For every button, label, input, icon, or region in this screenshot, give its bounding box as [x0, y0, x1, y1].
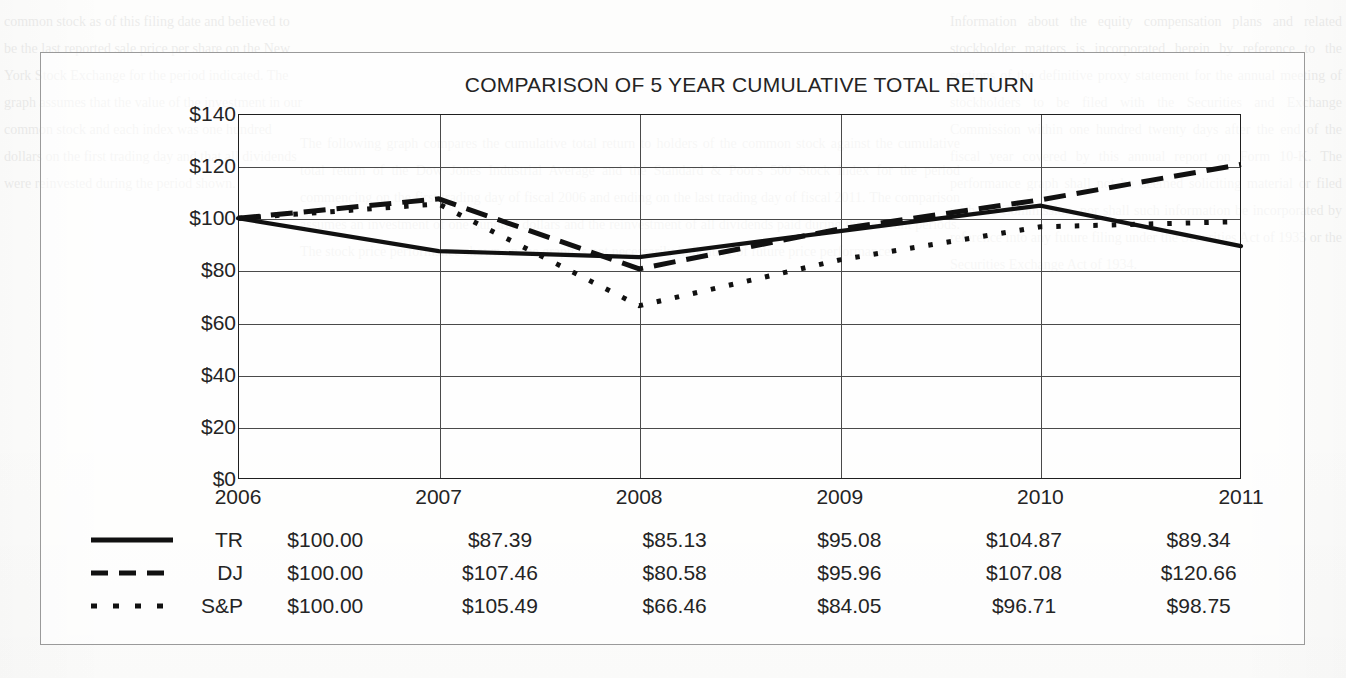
line-solid-icon [91, 537, 173, 542]
legend-value-cell: $100.00 [240, 594, 410, 618]
y-tick-label: $60 [146, 311, 236, 335]
legend-value-cell: $107.46 [415, 561, 585, 585]
y-tick-label: $140 [146, 102, 236, 126]
y-tick-label: $20 [146, 415, 236, 439]
y-tick-label: $80 [146, 258, 236, 282]
y-tick-label: $100 [146, 206, 236, 230]
legend-value-cell: $85.13 [590, 528, 760, 552]
x-tick-label: 2011 [1161, 485, 1321, 509]
y-axis-tick-labels: $0$20$40$60$80$100$120$140 [136, 114, 236, 479]
x-axis-tick-labels: 200620072008200920102011 [238, 485, 1241, 513]
series-lines [238, 114, 1241, 479]
y-tick-label: $120 [146, 154, 236, 178]
legend-value-cell: $95.08 [764, 528, 934, 552]
x-tick-label: 2009 [760, 485, 920, 509]
chart-title: COMPARISON OF 5 YEAR CUMULATIVE TOTAL RE… [41, 73, 1306, 97]
legend-value-cell: $95.96 [764, 561, 934, 585]
legend-row: TR$100.00$87.39$85.13$95.08$104.87$89.34 [61, 523, 1286, 556]
legend-value-cell: $120.66 [1114, 561, 1284, 585]
line-dashed-icon [91, 570, 173, 575]
x-tick-label: 2010 [960, 485, 1120, 509]
line-dotted-icon [91, 603, 173, 608]
legend-series-name: DJ [181, 561, 243, 585]
performance-graph-figure: COMPARISON OF 5 YEAR CUMULATIVE TOTAL RE… [40, 52, 1305, 645]
plot-wrap [238, 114, 1241, 479]
x-tick-label: 2007 [359, 485, 519, 509]
legend-value-cell: $98.75 [1114, 594, 1284, 618]
legend-value-cell: $84.05 [764, 594, 934, 618]
x-tick-label: 2006 [158, 485, 318, 509]
y-tick-label: $40 [146, 363, 236, 387]
legend-data-table: TR$100.00$87.39$85.13$95.08$104.87$89.34… [61, 523, 1286, 622]
legend-value-cell: $80.58 [590, 561, 760, 585]
legend-value-cell: $100.00 [240, 561, 410, 585]
legend-value-cell: $96.71 [939, 594, 1109, 618]
legend-value-cell: $105.49 [415, 594, 585, 618]
x-tick-label: 2008 [559, 485, 719, 509]
legend-series-name: S&P [181, 594, 243, 618]
legend-row: S&P$100.00$105.49$66.46$84.05$96.71$98.7… [61, 589, 1286, 622]
legend-value-cell: $87.39 [415, 528, 585, 552]
series-line-s-p [238, 204, 1241, 306]
legend-series-name: TR [181, 528, 243, 552]
legend-value-cell: $107.08 [939, 561, 1109, 585]
legend-row: DJ$100.00$107.46$80.58$95.96$107.08$120.… [61, 556, 1286, 589]
legend-value-cell: $104.87 [939, 528, 1109, 552]
chart-title-text: COMPARISON OF 5 YEAR CUMULATIVE TOTAL RE… [465, 73, 1034, 97]
legend-value-cell: $89.34 [1114, 528, 1284, 552]
legend-value-cell: $66.46 [590, 594, 760, 618]
legend-value-cell: $100.00 [240, 528, 410, 552]
